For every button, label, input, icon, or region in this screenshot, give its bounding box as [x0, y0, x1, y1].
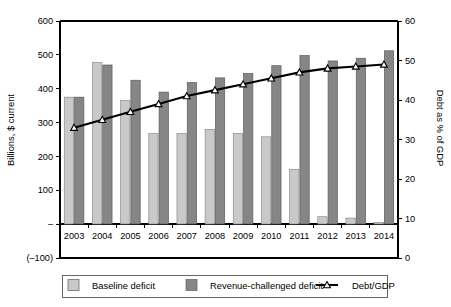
left-tick-label: – — [48, 219, 54, 229]
x-tick-label-2006: 2006 — [148, 231, 168, 241]
right-tick-label: 40 — [405, 95, 415, 105]
bar-baseline-2006 — [149, 133, 158, 224]
left-tick-label: (–100) — [26, 253, 53, 263]
legend-swatch-baseline-deficit — [68, 280, 79, 291]
right-tick-label: 50 — [405, 56, 415, 66]
bar-revenue-2013 — [356, 58, 365, 224]
left-tick-label: 200 — [38, 152, 53, 162]
x-tick-label-2009: 2009 — [233, 231, 253, 241]
left-tick-label: 600 — [38, 16, 53, 26]
right-tick-label: 30 — [405, 135, 415, 145]
x-tick-label-2007: 2007 — [177, 231, 197, 241]
bar-baseline-2007 — [177, 133, 186, 224]
x-tick-label-2013: 2013 — [346, 231, 366, 241]
legend-label-2: Debt/GDP — [352, 280, 395, 291]
bar-revenue-2006 — [159, 92, 168, 224]
bar-revenue-2008 — [215, 78, 224, 224]
x-axis-category-labels: 2003200420052006200720082009201020112012… — [64, 224, 394, 241]
bar-revenue-2014 — [384, 51, 393, 224]
bar-baseline-2005 — [121, 101, 130, 224]
chart-svg: 600500400300200100–(–100) 6050403020100 … — [0, 0, 451, 307]
right-tick-label: 10 — [405, 214, 415, 224]
bar-baseline-2011 — [290, 169, 299, 224]
left-tick-label: 400 — [38, 84, 53, 94]
chart-figure: 600500400300200100–(–100) 6050403020100 … — [0, 0, 451, 307]
x-tick-label-2004: 2004 — [92, 231, 112, 241]
bar-baseline-2008 — [205, 129, 214, 224]
x-tick-label-2003: 2003 — [64, 231, 84, 241]
legend-label-0: Baseline deficit — [92, 280, 155, 291]
bar-baseline-2004 — [92, 62, 101, 224]
left-tick-label: 300 — [38, 118, 53, 128]
bar-revenue-2009 — [244, 73, 253, 224]
x-tick-label-2012: 2012 — [317, 231, 337, 241]
bar-revenue-2012 — [328, 61, 337, 224]
bar-baseline-2003 — [64, 97, 73, 224]
bar-baseline-2012 — [318, 217, 327, 224]
left-axis-ticks: 600500400300200100–(–100) — [26, 16, 60, 263]
bar-revenue-2003 — [75, 97, 84, 224]
legend-swatch-revenue-challenged-deficit — [186, 280, 197, 291]
bar-baseline-2014 — [374, 222, 383, 224]
legend-label-1: Revenue-challenged deficit — [210, 280, 323, 291]
bar-baseline-2009 — [233, 133, 242, 224]
bar-revenue-2005 — [131, 80, 140, 224]
x-tick-label-2011: 2011 — [290, 231, 310, 241]
chart-legend: Baseline deficitRevenue-challenged defic… — [62, 275, 395, 297]
bar-baseline-2010 — [261, 137, 270, 224]
x-tick-label-2014: 2014 — [374, 231, 394, 241]
left-tick-label: 500 — [38, 50, 53, 60]
bar-baseline-2013 — [346, 218, 355, 224]
bar-revenue-2004 — [103, 65, 112, 224]
bar-revenue-2011 — [300, 56, 309, 224]
right-tick-label: 60 — [405, 16, 415, 26]
right-tick-label: 20 — [405, 174, 415, 184]
x-tick-label-2008: 2008 — [205, 231, 225, 241]
left-axis-title: Billions, $ current — [5, 94, 16, 166]
right-tick-label: 0 — [405, 253, 410, 263]
x-tick-label-2005: 2005 — [120, 231, 140, 241]
left-tick-label: 100 — [38, 185, 53, 195]
bar-revenue-2010 — [272, 66, 281, 224]
right-axis-title: Debt as % of GDP — [435, 90, 446, 167]
right-axis-ticks: 6050403020100 — [398, 16, 415, 263]
x-tick-label-2010: 2010 — [261, 231, 281, 241]
bar-revenue-2007 — [187, 83, 196, 224]
